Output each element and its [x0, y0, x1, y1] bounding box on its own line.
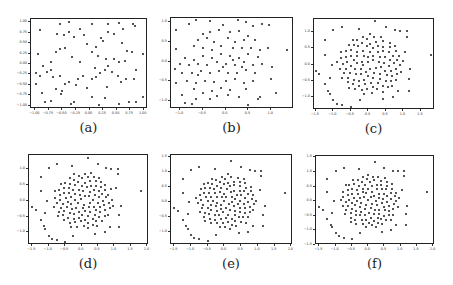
data-point: [115, 187, 117, 189]
y-tick-label: −0.5: [302, 78, 312, 82]
data-point: [142, 96, 144, 98]
data-point: [376, 188, 378, 190]
data-point: [324, 39, 326, 41]
data-point: [384, 70, 386, 72]
x-tick-mark: [190, 244, 191, 246]
data-point: [214, 214, 216, 216]
data-point: [222, 211, 224, 213]
data-point: [40, 190, 42, 192]
data-point: [340, 57, 342, 59]
y-tick-label: 1.0: [162, 19, 169, 23]
data-point: [88, 206, 90, 208]
data-point: [255, 200, 257, 202]
data-point: [393, 203, 395, 205]
data-point: [64, 182, 66, 184]
data-point: [74, 199, 76, 201]
data-point: [207, 240, 209, 242]
data-point: [234, 198, 236, 200]
data-point: [404, 51, 406, 53]
data-point: [177, 210, 179, 212]
data-point: [59, 75, 61, 77]
data-point: [181, 72, 183, 74]
y-tick-label: 0.0: [20, 198, 27, 202]
data-point: [42, 65, 44, 67]
data-point: [206, 37, 208, 39]
data-point: [252, 80, 254, 82]
data-point: [89, 202, 91, 204]
data-point: [84, 210, 86, 212]
data-point: [374, 161, 376, 163]
data-point: [208, 213, 210, 215]
data-point: [182, 219, 184, 221]
data-point: [201, 207, 203, 209]
data-point: [105, 167, 107, 169]
data-point: [365, 219, 367, 221]
x-tick-label: −1.5: [311, 112, 319, 116]
data-point: [377, 222, 379, 224]
data-point: [225, 196, 227, 198]
y-tick-label: 0.75: [19, 30, 29, 34]
data-point: [97, 163, 99, 165]
x-tick-mark: [173, 244, 174, 246]
data-point: [362, 188, 364, 190]
data-point: [377, 51, 379, 53]
data-point: [80, 220, 82, 222]
x-tick-mark: [207, 244, 208, 246]
data-point: [112, 205, 114, 207]
x-tick-label: 1.0: [397, 247, 402, 251]
data-point: [250, 47, 252, 49]
data-point: [234, 78, 236, 80]
y-tick-label: 1.0: [305, 29, 312, 33]
data-point: [40, 176, 42, 178]
data-point: [118, 22, 120, 24]
data-point: [240, 221, 242, 223]
data-point: [388, 205, 390, 207]
data-point: [225, 207, 227, 209]
data-point: [385, 219, 387, 221]
data-point: [218, 29, 220, 31]
data-point: [376, 88, 378, 90]
data-point: [98, 104, 100, 106]
data-point: [211, 90, 213, 92]
x-tick-mark: [97, 244, 98, 246]
data-point: [346, 61, 348, 63]
data-point: [358, 80, 360, 82]
data-point: [252, 194, 254, 196]
data-point: [200, 199, 202, 201]
data-point: [97, 202, 99, 204]
data-point: [70, 103, 72, 105]
data-point: [231, 218, 233, 220]
y-tick-label: −0.5: [304, 213, 314, 217]
data-point: [211, 49, 213, 51]
data-point: [96, 225, 98, 227]
data-point: [245, 222, 247, 224]
y-tick-label: −1.00: [17, 103, 29, 107]
data-point: [259, 96, 261, 98]
data-point: [236, 194, 238, 196]
data-point: [68, 187, 70, 189]
x-tick-label: 1.0: [111, 247, 116, 251]
x-tick-label: −1.0: [44, 247, 52, 251]
x-tick-label: −0.25: [70, 111, 80, 115]
data-point: [396, 59, 398, 61]
x-tick-label: 0.0: [222, 111, 227, 115]
data-point: [184, 102, 186, 104]
data-point: [245, 69, 247, 71]
x-tick-mark: [315, 109, 316, 111]
y-tick-label: −1.5: [304, 242, 314, 246]
data-point: [378, 61, 380, 63]
data-point: [78, 211, 80, 213]
data-point: [395, 79, 397, 81]
data-point: [242, 216, 244, 218]
data-point: [216, 95, 218, 97]
data-point: [395, 50, 397, 52]
data-point: [60, 207, 62, 209]
data-point: [241, 66, 243, 68]
data-point: [219, 191, 221, 193]
data-point: [270, 78, 272, 80]
data-point: [378, 193, 380, 195]
data-point: [348, 87, 350, 89]
y-tick-label: 1.0: [20, 166, 27, 170]
data-point: [84, 173, 86, 175]
data-point: [197, 74, 199, 76]
